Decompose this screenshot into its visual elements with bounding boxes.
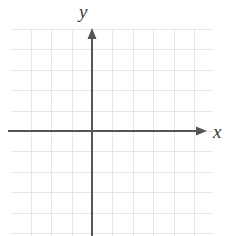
x-axis-arrowhead-icon	[196, 127, 207, 136]
x-axis-label: x	[213, 122, 221, 141]
y-axis-label: y	[79, 2, 87, 21]
axes	[8, 28, 207, 236]
coordinate-plane-canvas	[0, 0, 232, 236]
coordinate-plane: y x	[0, 0, 232, 236]
grid-lines	[11, 29, 213, 236]
